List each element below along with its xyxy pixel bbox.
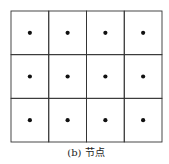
figure-caption: (b) 节点 bbox=[0, 146, 169, 160]
node-dot bbox=[66, 74, 70, 78]
node-dot bbox=[103, 31, 107, 35]
node-dot bbox=[28, 31, 32, 35]
node-dot bbox=[28, 118, 32, 122]
node-dot bbox=[141, 118, 145, 122]
node-dot bbox=[141, 74, 145, 78]
node-dot bbox=[103, 74, 107, 78]
node-grid-diagram bbox=[0, 0, 169, 164]
node-dot bbox=[66, 31, 70, 35]
node-dot bbox=[28, 74, 32, 78]
node-dot bbox=[103, 118, 107, 122]
grid-cells bbox=[11, 11, 162, 142]
node-dot bbox=[141, 31, 145, 35]
node-dot bbox=[66, 118, 70, 122]
